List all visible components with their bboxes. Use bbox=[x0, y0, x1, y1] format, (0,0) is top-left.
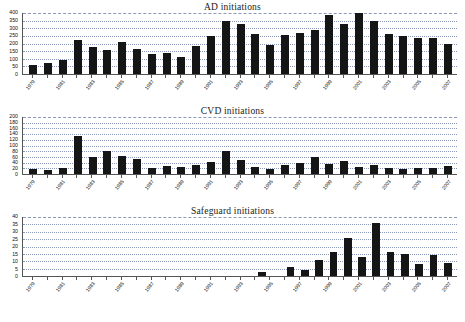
y-tick-label: 5 bbox=[15, 267, 18, 272]
y-tick-label: 150 bbox=[9, 49, 18, 54]
x-label-slot bbox=[396, 280, 411, 300]
x-label-slot: 2005 bbox=[411, 280, 426, 300]
bar-slot bbox=[130, 13, 145, 74]
bar-slot bbox=[292, 117, 307, 174]
x-tick-label: 2001 bbox=[352, 281, 363, 293]
x-label-slot bbox=[336, 78, 351, 98]
x-tick-label: 1991 bbox=[203, 179, 214, 191]
y-tick-label: 200 bbox=[9, 41, 18, 46]
bar-slot bbox=[41, 117, 56, 174]
bar-slot bbox=[85, 13, 100, 74]
x-tick-label: 1995 bbox=[263, 79, 274, 91]
bar-slot bbox=[212, 217, 226, 276]
x-tick-label: 1991 bbox=[203, 281, 214, 293]
bar-series-ad bbox=[23, 13, 457, 74]
bar-slot bbox=[218, 117, 233, 174]
bar-slot bbox=[41, 13, 56, 74]
y-tick-label: 160 bbox=[9, 126, 18, 131]
bar-slot bbox=[69, 217, 83, 276]
x-label-slot bbox=[247, 178, 262, 198]
x-label-slot: 1979 bbox=[25, 78, 40, 98]
bar-slot bbox=[355, 217, 369, 276]
bar bbox=[281, 165, 289, 174]
bar-slot bbox=[112, 217, 126, 276]
bar-slot bbox=[100, 13, 115, 74]
bar-slot bbox=[233, 117, 248, 174]
bar-slot bbox=[322, 117, 337, 174]
bar-slot bbox=[85, 117, 100, 174]
y-tick-label: 180 bbox=[9, 120, 18, 125]
x-tick-label: 1989 bbox=[174, 79, 185, 91]
bar-slot bbox=[411, 13, 426, 74]
bar bbox=[429, 38, 437, 74]
x-label-slot: 1991 bbox=[203, 280, 218, 300]
x-tick-label: 1989 bbox=[174, 179, 185, 191]
bar bbox=[330, 252, 338, 276]
x-label-slot: 1995 bbox=[262, 280, 277, 300]
x-tick-label: 2007 bbox=[441, 281, 452, 293]
bar-slot bbox=[115, 13, 130, 74]
y-tick-label: 350 bbox=[9, 18, 18, 23]
x-label-slot bbox=[40, 178, 55, 198]
bar bbox=[133, 159, 141, 174]
x-label-slot bbox=[277, 178, 292, 198]
bar-slot bbox=[298, 217, 312, 276]
x-tick-label: 1997 bbox=[292, 179, 303, 191]
bar bbox=[372, 223, 380, 276]
y-tick-label: 30 bbox=[12, 229, 18, 234]
x-tick-label: 1981 bbox=[55, 281, 66, 293]
plot-frame-safeguard bbox=[22, 217, 457, 277]
x-label-slot bbox=[277, 78, 292, 98]
bar-slot bbox=[283, 217, 297, 276]
x-label-slot bbox=[69, 178, 84, 198]
bar bbox=[414, 38, 422, 74]
bar bbox=[251, 167, 259, 174]
x-label-slot: 2003 bbox=[381, 280, 396, 300]
x-tick-label: 2003 bbox=[381, 281, 392, 293]
bar-slot bbox=[383, 217, 397, 276]
x-label-slot: 1987 bbox=[144, 280, 159, 300]
x-label-slot bbox=[99, 280, 114, 300]
x-label-slot bbox=[307, 78, 322, 98]
bar-slot bbox=[204, 13, 219, 74]
y-tick-label: 10 bbox=[12, 259, 18, 264]
x-label-slot bbox=[129, 178, 144, 198]
bar-slot bbox=[398, 217, 412, 276]
bar-slot bbox=[263, 13, 278, 74]
bar bbox=[355, 167, 363, 174]
bar bbox=[237, 160, 245, 174]
bar bbox=[222, 21, 230, 74]
x-tick-label: 2005 bbox=[411, 79, 422, 91]
x-label-slot: 1995 bbox=[262, 178, 277, 198]
bar bbox=[177, 167, 185, 174]
x-label-slot bbox=[366, 78, 381, 98]
bar bbox=[355, 13, 363, 74]
x-label-slot bbox=[188, 78, 203, 98]
bar bbox=[74, 40, 82, 74]
bar bbox=[370, 21, 378, 74]
bar bbox=[44, 63, 52, 74]
y-tick-label: 400 bbox=[9, 10, 18, 15]
x-label-slot: 1979 bbox=[25, 280, 40, 300]
bar-slot bbox=[26, 217, 40, 276]
x-label-slot: 1999 bbox=[322, 78, 337, 98]
bar-series-cvd bbox=[23, 117, 457, 174]
bar-slot bbox=[366, 13, 381, 74]
x-tick-label: 1985 bbox=[115, 179, 126, 191]
x-tick-label: 2001 bbox=[352, 179, 363, 191]
bar-slot bbox=[155, 217, 169, 276]
x-label-slot: 1995 bbox=[262, 78, 277, 98]
bar-slot bbox=[441, 217, 455, 276]
bar-slot bbox=[326, 217, 340, 276]
bar-slot bbox=[115, 117, 130, 174]
x-label-slot bbox=[425, 78, 440, 98]
bar-slot bbox=[352, 13, 367, 74]
x-label-slot: 1983 bbox=[84, 280, 99, 300]
x-label-slot: 1993 bbox=[233, 280, 248, 300]
x-tick-label: 1981 bbox=[55, 79, 66, 91]
x-label-slot bbox=[158, 280, 173, 300]
y-tick-label: 25 bbox=[12, 237, 18, 242]
chart-title-ad: AD initiations bbox=[0, 2, 465, 13]
bar-slot bbox=[248, 117, 263, 174]
x-tick-label: 2007 bbox=[441, 79, 452, 91]
